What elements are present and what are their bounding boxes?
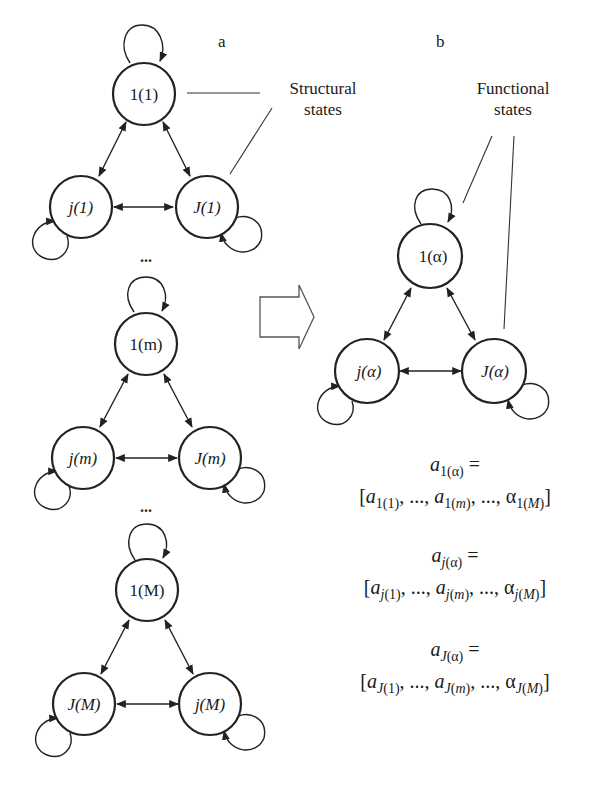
formula-lhs: aj(α) = (305, 543, 605, 575)
structural-states-label: Structural states (268, 78, 378, 120)
state-node-right: J(1) (176, 176, 238, 238)
transition-edge (164, 374, 192, 427)
ellipsis-2: ... (140, 498, 152, 515)
svg-text:j(α): j(α) (355, 362, 382, 381)
ellipsis-1: ... (140, 248, 152, 265)
transition-edge (100, 374, 128, 427)
transition-edge (99, 122, 126, 176)
formula-aj: aj(α) = [aj(1), ..., aj(m), ..., αj(M)] (305, 543, 605, 607)
functional-leader-1 (463, 136, 492, 203)
panel-label-b: b (436, 32, 445, 51)
functional-leader-2 (504, 136, 514, 329)
formula-a1: a1(α) = [a1(1), ..., a1(m), ..., α1(M)] (305, 452, 605, 516)
svg-text:1(α): 1(α) (419, 247, 448, 266)
svg-text:1(1): 1(1) (130, 85, 158, 104)
transition-edge (384, 288, 411, 340)
svg-text:J(1): J(1) (193, 198, 221, 217)
state-node-left: j(α) (335, 339, 399, 403)
svg-text:j(m): j(m) (67, 449, 98, 468)
formula-rhs: [aj(1), ..., aj(m), ..., αj(M)] (305, 575, 605, 607)
state-node-left: J(M) (53, 673, 115, 735)
functional-graph-alpha: 1(α) j(α) J(α) (318, 189, 549, 424)
state-node-left: j(1) (50, 176, 112, 238)
functional-states-label: Functional states (458, 78, 568, 120)
structural-graph-m: 1(m) j(m) J(m) (35, 277, 265, 509)
svg-text:J(M): J(M) (67, 695, 100, 714)
formula-lhs: aJ(α) = (305, 637, 605, 669)
svg-text:1(M): 1(M) (130, 581, 165, 600)
self-loop (415, 189, 452, 224)
transition-edge (165, 620, 193, 674)
transition-edge (447, 288, 475, 340)
svg-text:J(m): J(m) (194, 449, 225, 468)
state-node-left: j(m) (52, 427, 114, 489)
structural-leader-2 (230, 108, 272, 174)
state-node-top: 1(1) (113, 63, 175, 125)
structural-graph-M: 1(M) J(M) j(M) (36, 524, 265, 756)
state-node-right: j(M) (179, 673, 241, 735)
svg-text:1(m): 1(m) (129, 335, 162, 354)
formula-rhs: [aJ(1), ..., aJ(m), ..., αJ(M)] (305, 669, 605, 701)
self-loop (129, 524, 167, 560)
formula-lhs: a1(α) = (305, 452, 605, 484)
state-node-top: 1(α) (398, 224, 462, 288)
svg-text:J(α): J(α) (481, 362, 509, 381)
svg-text:j(M): j(M) (193, 695, 226, 714)
self-loop (124, 25, 163, 63)
transition-edge (101, 620, 129, 674)
state-node-top: 1(M) (116, 559, 178, 621)
transition-edge (163, 122, 190, 176)
state-node-right: J(m) (179, 427, 241, 489)
svg-text:j(1): j(1) (67, 198, 94, 217)
self-loop (128, 277, 166, 312)
hollow-right-arrow-icon (260, 285, 314, 349)
structural-graph-1: 1(1) j(1) J(1) (33, 25, 262, 259)
formula-aJ: aJ(α) = [aJ(1), ..., aJ(m), ..., αJ(M)] (305, 637, 605, 701)
formula-rhs: [a1(1), ..., a1(m), ..., α1(M)] (305, 484, 605, 516)
state-node-right: J(α) (462, 339, 526, 403)
panel-label-a: a (218, 32, 226, 51)
state-node-top: 1(m) (115, 313, 177, 375)
